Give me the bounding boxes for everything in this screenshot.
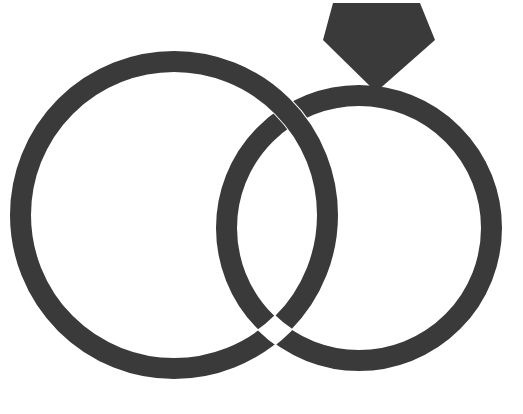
- illustration-canvas: Interlocking Wedding Rings: [0, 0, 523, 414]
- wedding-rings-icon: Interlocking Wedding Rings: [0, 0, 523, 414]
